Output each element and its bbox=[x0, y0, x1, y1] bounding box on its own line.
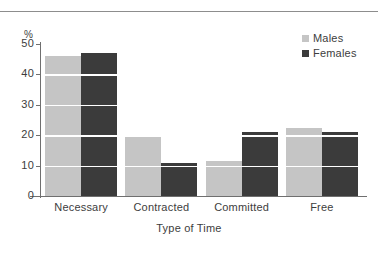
x-axis-line bbox=[30, 196, 367, 197]
bar-free-females bbox=[322, 132, 358, 196]
chart-figure: % 01020304050 NecessaryContractedCommitt… bbox=[0, 0, 378, 254]
x-category-label-free: Free bbox=[266, 201, 378, 213]
gridline bbox=[41, 105, 362, 107]
gridline bbox=[41, 74, 362, 76]
bar-necessary-males bbox=[45, 56, 81, 196]
y-tick-label: 30 bbox=[21, 99, 34, 110]
legend-item-males: Males bbox=[302, 32, 357, 45]
bar-free-males bbox=[286, 128, 322, 196]
y-tick-label: 10 bbox=[21, 160, 34, 171]
bar-contracted-females bbox=[161, 163, 197, 196]
gridline bbox=[41, 166, 362, 168]
legend-item-females: Females bbox=[302, 47, 357, 60]
chart-legend: Males Females bbox=[302, 32, 357, 62]
y-axis-line bbox=[40, 42, 41, 198]
legend-swatch-females-icon bbox=[302, 50, 309, 57]
y-tick-label: 40 bbox=[21, 68, 34, 79]
top-divider-rule bbox=[0, 11, 378, 12]
y-tick-mark bbox=[36, 44, 41, 45]
bar-committed-females bbox=[242, 132, 278, 196]
legend-label-females: Females bbox=[313, 48, 357, 59]
legend-swatch-males-icon bbox=[302, 35, 309, 42]
legend-label-males: Males bbox=[313, 33, 343, 44]
x-axis-title: Type of Time bbox=[0, 222, 378, 234]
gridline bbox=[41, 135, 362, 137]
y-tick-label: 0 bbox=[28, 190, 34, 201]
y-tick-mark bbox=[36, 196, 41, 197]
y-tick-label: 20 bbox=[21, 129, 34, 140]
y-tick-label: 50 bbox=[21, 38, 34, 49]
